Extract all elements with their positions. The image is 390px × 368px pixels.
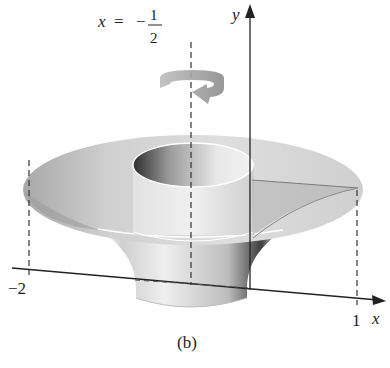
figure-caption: (b) [177,333,197,352]
inner-hole [133,143,253,187]
rotation-axis-sign: − [136,12,146,31]
x-axis-arrowhead [372,295,386,305]
rotation-axis-numerator: 1 [150,7,158,23]
tick-label-1: 1 [352,311,361,330]
tick-label-neg2: −2 [8,279,26,298]
rotation-axis-denominator: 2 [150,30,158,46]
rotation-axis-equals: = [114,12,124,31]
rotation-axis-lhs: x [97,12,106,31]
y-axis-label: y [230,5,240,24]
y-axis-arrowhead [245,4,255,18]
x-axis-label: x [371,309,380,328]
rotation-arrow-icon [160,70,224,104]
solid-of-revolution-diagram: x = − 1 2 y x −2 1 (b) [0,0,390,368]
